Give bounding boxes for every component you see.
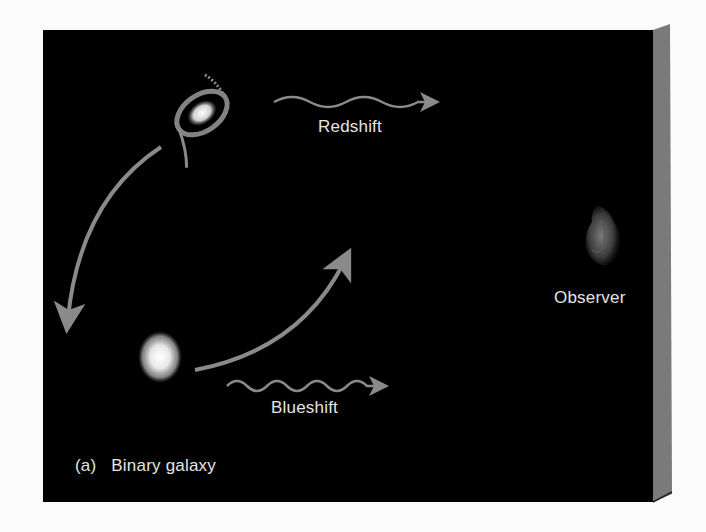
- elliptical-galaxy: [138, 331, 182, 383]
- redshift-label: Redshift: [318, 117, 382, 137]
- binary-galaxy-diagram: Redshift Blueshift Observer (a) Binary g…: [0, 0, 706, 532]
- observer-label: Observer: [554, 288, 626, 308]
- caption-prefix: (a): [75, 456, 96, 475]
- caption: (a) Binary galaxy: [75, 456, 216, 476]
- blueshift-label: Blueshift: [271, 398, 338, 418]
- panel-side-face: [653, 24, 672, 502]
- caption-text: Binary galaxy: [111, 456, 216, 475]
